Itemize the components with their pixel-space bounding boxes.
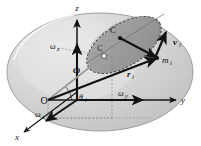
mass-element-marker [155, 56, 159, 60]
axis-label-y: y [180, 95, 185, 105]
label-omega-vector: ω [73, 64, 80, 75]
svg-text:m: m [162, 55, 169, 65]
svg-text:r: r [127, 69, 131, 79]
svg-text:x: x [41, 114, 45, 120]
svg-text:y: y [124, 93, 128, 99]
center-of-mass-marker [118, 36, 122, 40]
point-label-omega-tip: C [97, 44, 102, 53]
svg-text:i: i [132, 73, 134, 80]
svg-text:i: i [170, 59, 172, 66]
svg-text:ω: ω [50, 42, 56, 51]
axis-label-x: x [14, 132, 19, 142]
point-label-origin: O [40, 95, 47, 106]
svg-text:ω: ω [35, 110, 41, 119]
axis-label-z: z [74, 3, 79, 13]
rigid-body-rotation-figure: z y x O C C m i ω ω x ω y ω z r i [0, 0, 201, 146]
svg-text:i: i [179, 41, 181, 48]
svg-text:ω: ω [73, 64, 80, 75]
svg-text:ω: ω [118, 89, 124, 98]
svg-text:θ: θ [79, 93, 83, 102]
diagram-canvas: z y x O C C m i ω ω x ω y ω z r i [0, 0, 201, 146]
point-label-center-of-mass: C [110, 25, 116, 35]
